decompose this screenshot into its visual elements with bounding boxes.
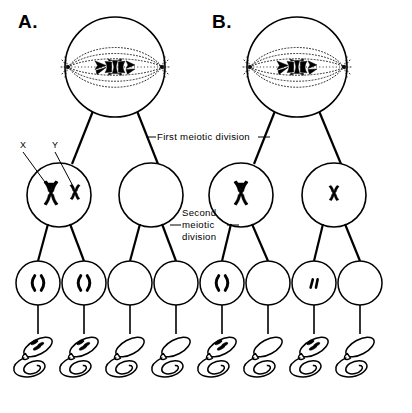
cell-a-spermatid-3	[108, 261, 152, 305]
cell-a-primary-spermatocyte	[61, 17, 169, 117]
sperm-b-4	[336, 333, 377, 377]
cell-b-secondary-spermatocyte-1	[209, 163, 273, 227]
sperm-a-2	[60, 333, 101, 377]
sperm-a-1	[14, 333, 55, 377]
second-meiotic-division-line2: meiotic	[182, 219, 215, 230]
connector-group-b-division2	[222, 224, 360, 261]
connector-group-a-spermiogenesis	[38, 305, 176, 334]
cell-b-spermatid-3	[292, 261, 336, 305]
panel-label-a: A.	[18, 11, 38, 32]
panel-label-b: B.	[212, 11, 232, 32]
cell-a-spermatid-1	[16, 261, 60, 305]
second-meiotic-division-line1: Second	[182, 207, 216, 218]
annotation-first-meiotic-division: First meiotic division	[146, 131, 270, 142]
cell-b-primary-spermatocyte	[243, 17, 351, 117]
cell-b-spermatid-1	[200, 261, 244, 305]
cell-b-spermatid-2	[246, 261, 290, 305]
sperm-a-3	[106, 333, 147, 377]
sperm-b-3	[290, 333, 331, 377]
cell-b-secondary-spermatocyte-2	[302, 163, 366, 227]
sperm-b-2	[244, 333, 285, 377]
label-x-chromosome: X	[20, 140, 26, 150]
label-y-chromosome: Y	[52, 140, 58, 150]
second-meiotic-division-line3: division	[182, 231, 216, 242]
sperm-b-1	[198, 333, 239, 377]
connector-group-a-division2	[38, 224, 176, 261]
connector-group-b-spermiogenesis	[222, 305, 360, 334]
cell-a-spermatid-4	[154, 261, 198, 305]
cell-a-secondary-spermatocyte-1	[27, 163, 91, 227]
cell-a-secondary-spermatocyte-2	[119, 163, 183, 227]
connector-group-a-division1	[72, 111, 158, 164]
first-meiotic-division-label: First meiotic division	[157, 131, 250, 142]
figure-canvas: A. B.	[0, 0, 412, 413]
cell-b-spermatid-4	[338, 261, 382, 305]
sperm-a-4	[152, 333, 193, 377]
cell-a-spermatid-2	[62, 261, 106, 305]
meiosis-diagram: A. B.	[0, 0, 412, 413]
